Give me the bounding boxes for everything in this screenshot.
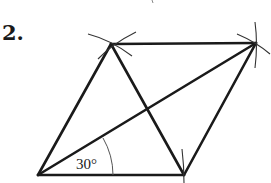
side-left (38, 44, 111, 175)
cropped-top-marks (152, 0, 153, 3)
side-top (111, 43, 256, 44)
angle-arc (103, 138, 113, 175)
diagonal-short (111, 44, 184, 175)
arc-mark-bottom-right (182, 149, 184, 183)
construction-arcs (88, 22, 270, 183)
diagonals (38, 43, 256, 175)
rhombus-diagram: 30° (0, 0, 271, 183)
angle-label: 30° (76, 156, 97, 172)
side-right (184, 43, 256, 175)
